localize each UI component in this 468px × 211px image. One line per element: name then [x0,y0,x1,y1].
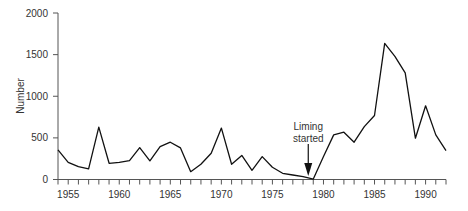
x-tick-label: 1955 [57,189,80,200]
x-axis: 19551960196519701975198019851990 [57,180,446,200]
y-tick-label: 2000 [26,8,49,19]
annotation-text: started [293,133,324,144]
y-tick-label: 1000 [26,91,49,102]
x-tick-label: 1980 [312,189,335,200]
annotation-text: Liming [294,121,323,132]
series-line [58,43,446,179]
x-tick-label: 1970 [210,189,233,200]
x-tick-label: 1990 [414,189,437,200]
x-tick-label: 1975 [261,189,284,200]
y-axis: 0500100015002000 [26,8,58,186]
x-tick-label: 1965 [159,189,182,200]
arrow-down-icon [304,163,312,176]
y-tick-label: 0 [42,174,48,185]
x-tick-label: 1960 [108,189,131,200]
line-chart: 0500100015002000 19551960196519701975198… [0,0,468,211]
data-series [58,43,446,179]
y-tick-label: 500 [31,132,48,143]
y-axis-title: Number [15,78,26,114]
y-tick-label: 1500 [26,49,49,60]
x-tick-label: 1985 [363,189,386,200]
